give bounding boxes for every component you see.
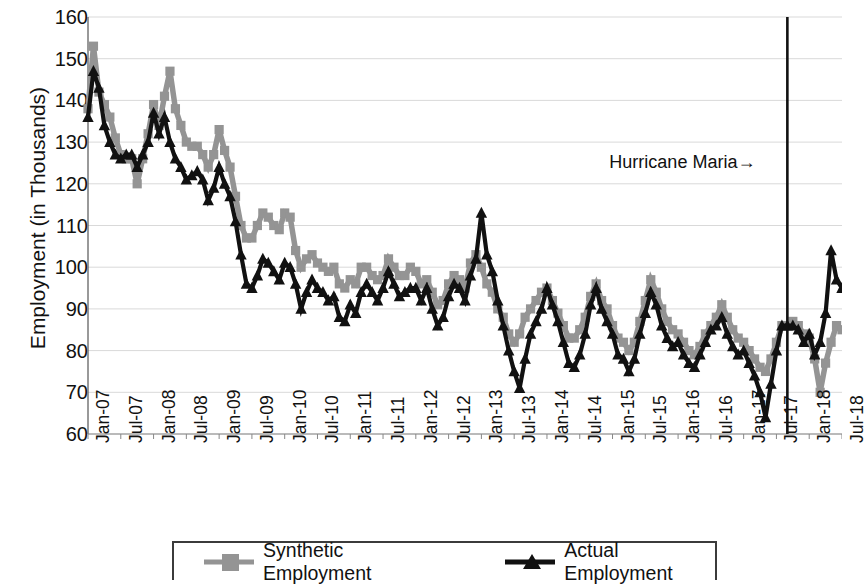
legend-label-synthetic: Synthetic Employment xyxy=(263,539,437,585)
legend-label-actual: Actual Employment xyxy=(564,539,715,585)
hurricane-maria-annotation: Hurricane Maria→ xyxy=(609,152,755,173)
legend-item-synthetic: Synthetic Employment xyxy=(202,539,437,585)
series-actual-employment xyxy=(82,65,842,422)
series-synthetic-employment xyxy=(83,42,842,397)
x-axis-tick-Jul-18: Jul-18 xyxy=(849,395,867,443)
legend-swatch-actual-icon xyxy=(503,552,555,572)
legend-item-actual: Actual Employment xyxy=(503,539,715,585)
chart-legend: Synthetic Employment Actual Employment xyxy=(172,541,717,580)
legend-swatch-synthetic-icon xyxy=(202,552,254,572)
